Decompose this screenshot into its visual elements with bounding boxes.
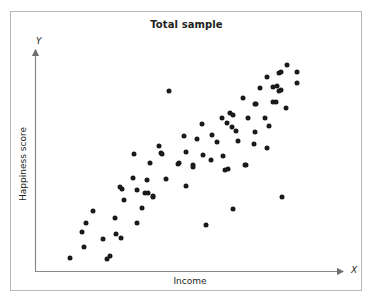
data-point bbox=[132, 152, 137, 157]
data-point bbox=[221, 154, 226, 159]
data-point bbox=[160, 152, 165, 157]
data-point bbox=[265, 146, 270, 151]
data-point bbox=[114, 232, 119, 237]
data-point bbox=[113, 216, 118, 221]
data-point bbox=[234, 129, 239, 134]
data-point bbox=[119, 236, 124, 241]
x-axis-label: Income bbox=[173, 276, 206, 286]
data-point bbox=[236, 139, 241, 144]
scatter-plot-canvas bbox=[0, 0, 373, 304]
data-point bbox=[285, 63, 290, 68]
data-point bbox=[145, 178, 150, 183]
data-point bbox=[122, 198, 127, 203]
data-point bbox=[148, 161, 153, 166]
data-point bbox=[135, 221, 140, 226]
x-axis-variable-letter: X bbox=[351, 265, 357, 275]
data-point bbox=[253, 130, 258, 135]
data-point bbox=[201, 153, 206, 158]
data-point bbox=[91, 209, 96, 214]
data-point bbox=[140, 206, 145, 211]
data-point bbox=[284, 106, 289, 111]
data-point bbox=[191, 165, 196, 170]
data-point bbox=[263, 116, 268, 121]
data-point bbox=[280, 195, 285, 200]
data-point bbox=[243, 163, 248, 168]
data-point bbox=[225, 121, 230, 126]
data-point bbox=[254, 102, 259, 107]
data-point bbox=[204, 223, 209, 228]
data-point bbox=[80, 230, 85, 235]
data-point bbox=[82, 245, 87, 250]
figure-container: Total sample Y X Happiness score Income bbox=[0, 0, 373, 304]
data-point bbox=[182, 134, 187, 139]
data-point bbox=[184, 184, 189, 189]
data-point bbox=[184, 150, 189, 155]
data-point bbox=[231, 207, 236, 212]
data-point bbox=[195, 137, 200, 142]
y-axis-variable-letter: Y bbox=[36, 36, 42, 46]
data-point bbox=[177, 161, 182, 166]
data-point bbox=[84, 221, 89, 226]
data-point bbox=[241, 96, 246, 101]
data-point bbox=[157, 144, 162, 149]
data-point bbox=[267, 124, 272, 129]
data-point bbox=[271, 100, 276, 105]
data-point bbox=[230, 125, 235, 130]
data-point bbox=[68, 256, 73, 261]
data-point bbox=[209, 158, 214, 163]
data-point bbox=[164, 177, 169, 182]
data-point bbox=[258, 86, 263, 91]
data-point bbox=[215, 140, 220, 145]
data-point bbox=[265, 75, 270, 80]
data-point bbox=[295, 81, 300, 86]
data-point bbox=[279, 88, 284, 93]
data-point bbox=[118, 185, 123, 190]
data-point bbox=[231, 113, 236, 118]
data-point bbox=[143, 191, 148, 196]
data-point bbox=[151, 194, 156, 199]
data-point bbox=[167, 89, 172, 94]
data-point bbox=[131, 176, 136, 181]
data-point bbox=[246, 116, 251, 121]
data-point bbox=[220, 116, 225, 121]
data-point bbox=[210, 133, 215, 138]
data-point bbox=[295, 70, 300, 75]
data-point bbox=[108, 254, 113, 259]
data-point bbox=[223, 168, 228, 173]
data-point bbox=[271, 85, 276, 90]
data-point bbox=[101, 237, 106, 242]
y-axis-label: Happiness score bbox=[18, 127, 28, 201]
data-point bbox=[200, 122, 205, 127]
data-point-group bbox=[68, 63, 300, 262]
data-point bbox=[279, 70, 284, 75]
data-point bbox=[252, 142, 257, 147]
data-point bbox=[135, 188, 140, 193]
